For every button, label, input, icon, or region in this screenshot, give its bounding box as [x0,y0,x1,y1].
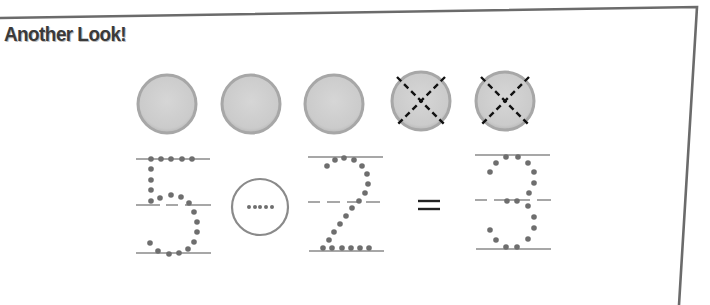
counter-plain-1 [138,75,196,133]
counter-crossed-2 [476,72,534,130]
worksheet-art [0,0,710,305]
equals-sign [418,201,440,209]
operator-blank[interactable] [232,179,288,235]
digit-three-traced [475,154,551,250]
digit-five-traced [136,156,211,257]
digit-two-traced [308,155,384,251]
counter-plain-3 [305,75,363,133]
counter-plain-2 [222,75,280,133]
counter-crossed-1 [392,72,450,130]
